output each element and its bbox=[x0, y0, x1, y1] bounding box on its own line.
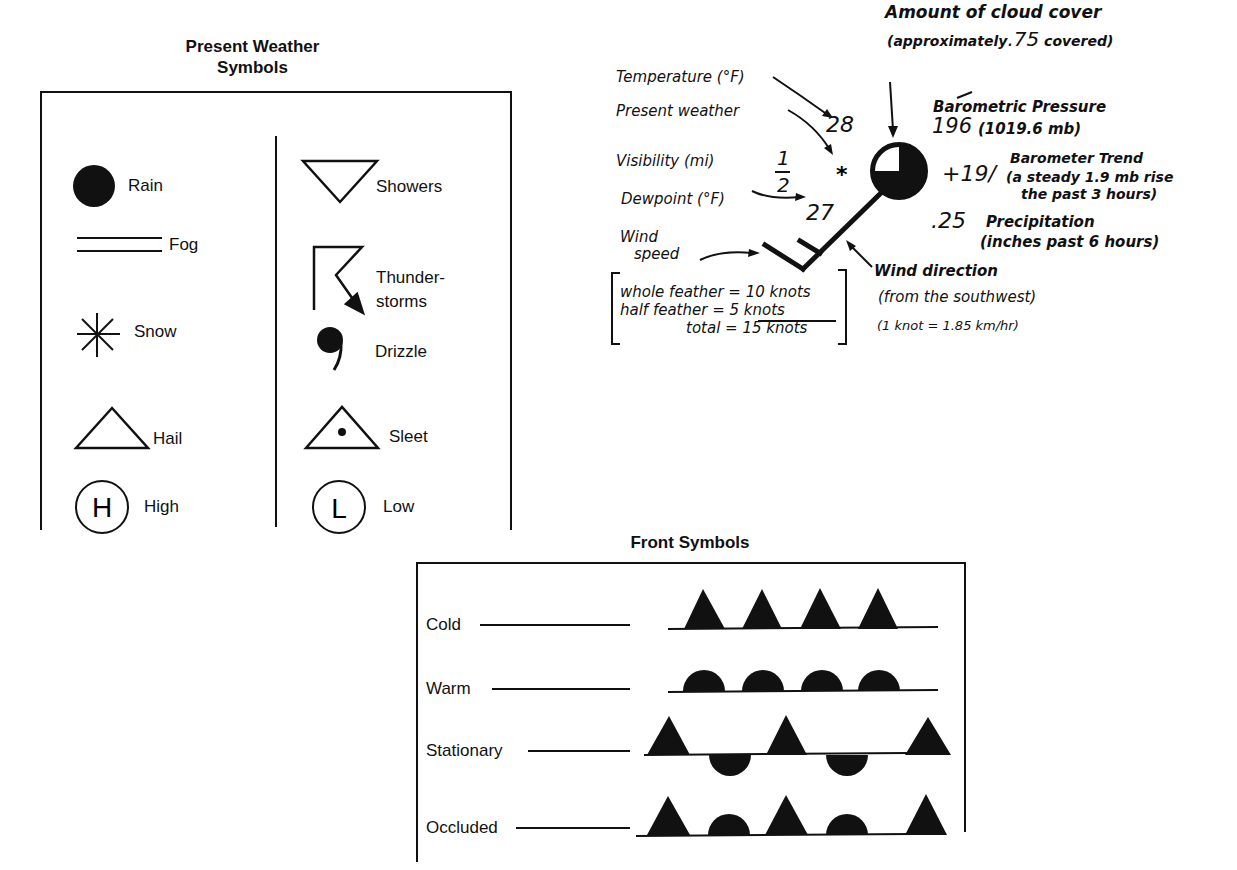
stationary-front-icon bbox=[644, 715, 951, 776]
present-weather-label: Present weather bbox=[616, 102, 739, 120]
showers-label: Showers bbox=[376, 177, 442, 197]
visibility-denominator: 2 bbox=[777, 173, 790, 197]
cold-front-icon bbox=[668, 588, 938, 629]
visibility-numerator: 1 bbox=[777, 146, 790, 170]
cloud-cover-prefix: (approximately bbox=[887, 33, 1007, 49]
high-pressure-icon: H bbox=[76, 481, 128, 533]
precip-value: .25 bbox=[931, 208, 966, 233]
rain-icon bbox=[73, 165, 115, 207]
low-pressure-icon: L bbox=[313, 481, 365, 533]
temperature-value: 28 bbox=[826, 112, 854, 137]
wind-speed-label-line-1: Wind bbox=[620, 229, 679, 246]
svg-text:L: L bbox=[331, 493, 347, 524]
front-leader-lines bbox=[480, 625, 630, 828]
wind-speed-key: whole feather = 10 knots half feather = … bbox=[620, 283, 811, 337]
fog-icon bbox=[77, 238, 162, 251]
rain-label: Rain bbox=[128, 176, 163, 196]
warm-front-icon bbox=[668, 670, 938, 692]
cloud-cover-suffix: covered) bbox=[1044, 33, 1113, 49]
front-label-warm: Warm bbox=[426, 679, 471, 699]
temperature-label: Temperature (°F) bbox=[616, 68, 745, 86]
front-label-stationary: Stationary bbox=[426, 741, 503, 761]
trend-line-2: (a steady 1.9 mb rise bbox=[1006, 169, 1173, 185]
present-weather-star-icon: * bbox=[836, 162, 848, 187]
half-feather-text: half feather = 5 knots bbox=[620, 301, 811, 319]
sleet-label: Sleet bbox=[389, 427, 428, 447]
wind-speed-label: Wind speed bbox=[620, 229, 679, 263]
pressure-value: 196 bbox=[932, 114, 972, 138]
fog-label: Fog bbox=[169, 235, 198, 255]
wind-speed-label-line-2: speed bbox=[620, 246, 679, 263]
high-label: High bbox=[144, 497, 179, 517]
pressure-detail: (1019.6 mb) bbox=[978, 120, 1081, 138]
wind-direction-detail: (from the southwest) bbox=[878, 288, 1036, 306]
total-knots-text: total = 15 knots bbox=[620, 319, 811, 337]
trend-line-3: the past 3 hours) bbox=[1021, 186, 1157, 202]
hail-icon bbox=[76, 408, 148, 448]
precip-line-2: (inches past 6 hours) bbox=[980, 233, 1159, 251]
svg-text:H: H bbox=[92, 492, 112, 523]
cloud-cover-label: Amount of cloud cover bbox=[885, 2, 1101, 22]
thunderstorms-icon bbox=[314, 247, 363, 313]
dewpoint-label: Dewpoint (°F) bbox=[621, 190, 725, 208]
visibility-label: Visibility (mi) bbox=[616, 152, 714, 170]
trend-value: +19/ bbox=[942, 161, 996, 186]
front-label-occluded: Occluded bbox=[426, 818, 498, 838]
sleet-icon bbox=[306, 407, 378, 448]
thunderstorms-label-line-1: Thunder- bbox=[376, 266, 445, 290]
cloud-cover-detail: (approximately.75 covered) bbox=[887, 27, 1113, 51]
wind-direction-label: Wind direction bbox=[874, 262, 998, 280]
knot-conversion: (1 knot = 1.85 km/hr) bbox=[877, 318, 1019, 333]
snow-label: Snow bbox=[134, 322, 177, 342]
drizzle-icon bbox=[317, 327, 343, 370]
front-symbols-title: Front Symbols bbox=[600, 532, 780, 553]
cloud-cover-icon bbox=[871, 143, 927, 199]
low-label: Low bbox=[383, 497, 414, 517]
showers-icon bbox=[303, 161, 377, 202]
snow-icon bbox=[77, 313, 120, 357]
hail-label: Hail bbox=[153, 429, 182, 449]
drizzle-label: Drizzle bbox=[375, 342, 427, 362]
front-label-cold: Cold bbox=[426, 615, 461, 635]
trend-label: Barometer Trend bbox=[1010, 150, 1143, 166]
precip-label: Precipitation bbox=[986, 213, 1095, 231]
thunderstorms-label: Thunder- storms bbox=[376, 266, 445, 314]
cloud-cover-value: .75 bbox=[1007, 27, 1039, 51]
occluded-front-icon bbox=[636, 794, 947, 836]
whole-feather-text: whole feather = 10 knots bbox=[620, 283, 811, 301]
thunderstorms-label-line-2: storms bbox=[376, 290, 445, 314]
dewpoint-value: 27 bbox=[806, 200, 834, 225]
